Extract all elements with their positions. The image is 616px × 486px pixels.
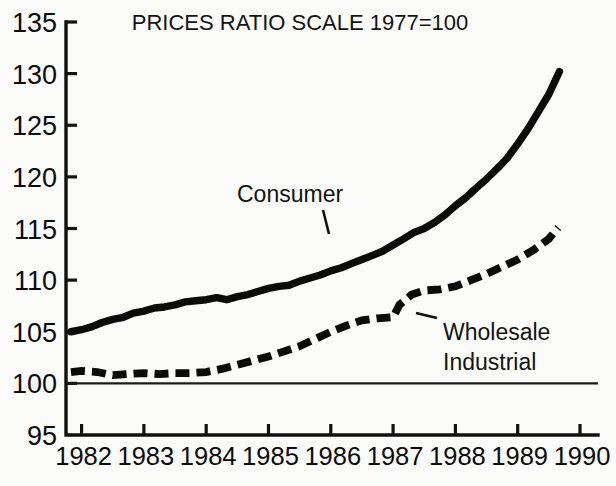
x-axis-label-1982: 1982	[55, 442, 112, 470]
y-axis-label-135: 135	[12, 8, 57, 38]
y-axis-label-100: 100	[12, 369, 57, 399]
x-axis-label-1990: 1990	[554, 442, 611, 470]
x-axis-label-1989: 1989	[491, 442, 548, 470]
series-label-consumer: Consumer	[237, 181, 343, 207]
leader-line-1	[416, 313, 437, 318]
leader-line-0	[323, 210, 329, 234]
annotation-leader-lines	[323, 210, 437, 318]
x-axis-labels: 198219831984198519861987198819891990	[55, 442, 610, 470]
chart-title: PRICES RATIO SCALE 1977=100	[132, 10, 468, 35]
y-axis-label-130: 130	[12, 60, 57, 90]
prices-ratio-scale-chart: PRICES RATIO SCALE 1977=100 951001051101…	[0, 0, 616, 486]
series-label-wholesale: Wholesale	[443, 319, 550, 345]
x-axis-label-1987: 1987	[367, 442, 424, 470]
x-axis-label-1985: 1985	[242, 442, 299, 470]
y-axis-label-95: 95	[27, 421, 57, 451]
y-axis-label-120: 120	[12, 163, 57, 193]
y-axis-label-110: 110	[14, 266, 57, 296]
y-axis-label-125: 125	[12, 111, 57, 141]
x-axis-label-1984: 1984	[180, 442, 237, 470]
chart-svg: PRICES RATIO SCALE 1977=100 951001051101…	[0, 0, 616, 486]
series-label-industrial: Industrial	[443, 349, 536, 375]
y-axis-label-105: 105	[12, 318, 57, 348]
x-axis-label-1986: 1986	[304, 442, 361, 470]
x-axis-label-1983: 1983	[118, 442, 175, 470]
y-axis-label-115: 115	[14, 215, 57, 245]
x-axis-label-1988: 1988	[429, 442, 486, 470]
y-axis-labels: 95100105110115120125130135	[12, 8, 57, 451]
